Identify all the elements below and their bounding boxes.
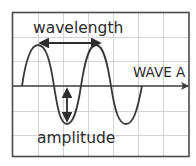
wave-name-label: WAVE A [133,64,186,80]
wave-diagram: wavelength amplitude WAVE A [0,0,196,166]
amplitude-label: amplitude [37,129,115,147]
wavelength-label: wavelength [33,19,123,37]
